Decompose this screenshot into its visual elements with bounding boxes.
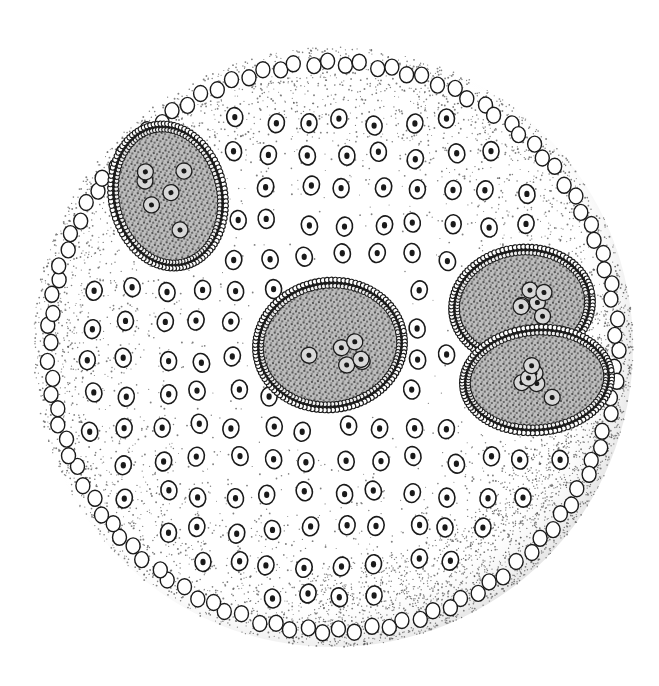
somatic-cell xyxy=(438,109,455,129)
somatic-cell xyxy=(266,417,283,437)
somatic-cell xyxy=(483,141,499,160)
somatic-cell xyxy=(445,214,462,234)
somatic-cell xyxy=(117,311,134,331)
somatic-cell xyxy=(161,523,177,542)
somatic-cell xyxy=(438,488,455,508)
somatic-cell xyxy=(409,179,426,199)
somatic-cell xyxy=(297,452,315,472)
somatic-cell xyxy=(160,351,177,371)
somatic-cell xyxy=(195,552,212,572)
somatic-cell xyxy=(79,350,96,370)
somatic-cell xyxy=(154,418,171,438)
somatic-cell xyxy=(411,515,429,535)
somatic-cell xyxy=(333,178,349,197)
somatic-cell xyxy=(258,485,276,505)
volvox-illustration xyxy=(0,0,659,686)
somatic-cell xyxy=(231,380,247,399)
colony-drawing xyxy=(0,0,659,686)
